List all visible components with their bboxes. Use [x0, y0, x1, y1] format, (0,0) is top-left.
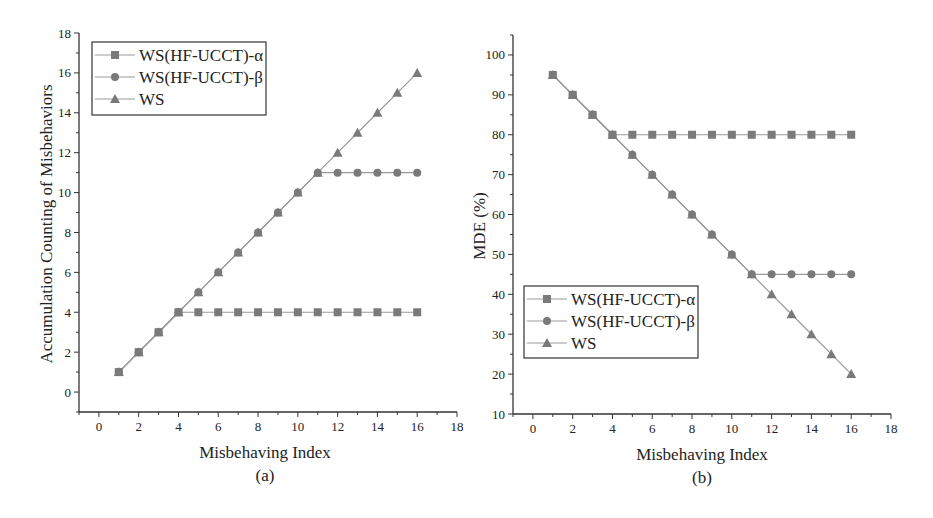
y-tick-label: 18 — [58, 26, 71, 41]
y-tick-label: 2 — [65, 345, 72, 360]
caption-b: (b) — [692, 468, 712, 487]
x-tick-label: 18 — [451, 419, 464, 434]
x-tick-label: 10 — [291, 419, 304, 434]
y-tick-label: 30 — [492, 327, 505, 342]
x-tick-label: 12 — [765, 421, 778, 436]
x-tick-label: 6 — [215, 419, 222, 434]
legend-a: WS(HF-UCCT)-αWS(HF-UCCT)-βWS — [92, 42, 266, 115]
legend-b: WS(HF-UCCT)-αWS(HF-UCCT)-βWS — [524, 286, 698, 358]
legend-label: WS(HF-UCCT)-β — [139, 68, 263, 87]
series-markers — [115, 308, 421, 376]
y-tick-label: 20 — [492, 367, 505, 382]
x-tick-label: 0 — [530, 421, 537, 436]
x-tick-label: 12 — [331, 419, 344, 434]
legend-label: WS — [571, 334, 597, 353]
legend-label: WS — [139, 90, 165, 109]
series-markers — [549, 71, 855, 278]
y-tick-label: 90 — [492, 87, 505, 102]
y-axis-label-a: Accumulation Counting of Misbehaviors — [37, 84, 56, 363]
y-tick-label: 10 — [58, 185, 71, 200]
legend-label: WS(HF-UCCT)-β — [571, 312, 695, 331]
caption-a: (a) — [256, 466, 275, 485]
series-line — [119, 73, 417, 372]
x-tick-label: 0 — [96, 419, 103, 434]
x-axis-label-a: Misbehaving Index — [199, 443, 331, 462]
x-tick-label: 10 — [725, 421, 738, 436]
x-tick-label: 18 — [885, 421, 898, 436]
legend-label: WS(HF-UCCT)-α — [571, 290, 695, 309]
x-tick-label: 4 — [175, 419, 182, 434]
y-tick-label: 6 — [65, 265, 72, 280]
x-tick-label: 8 — [255, 419, 262, 434]
y-tick-label: 80 — [492, 127, 505, 142]
series-line — [553, 75, 851, 135]
series-markers — [549, 71, 855, 139]
series-line — [119, 312, 417, 372]
y-tick-label: 0 — [65, 385, 72, 400]
x-tick-label: 14 — [805, 421, 819, 436]
series-line — [553, 75, 851, 274]
series-markers — [115, 169, 421, 376]
y-tick-label: 40 — [492, 287, 505, 302]
y-tick-label: 8 — [65, 225, 72, 240]
x-tick-label: 14 — [371, 419, 385, 434]
y-axis-label-b: MDE (%) — [470, 192, 489, 260]
axes-b: 024681012141618102030405060708090100 — [486, 35, 898, 436]
y-tick-label: 16 — [58, 65, 72, 80]
x-tick-label: 6 — [649, 421, 656, 436]
x-axis-label-b: Misbehaving Index — [636, 445, 768, 464]
chart-panel-a: 024681012141618024681012141618 Misbehavi… — [37, 26, 464, 486]
y-tick-label: 50 — [492, 247, 505, 262]
x-tick-label: 16 — [845, 421, 859, 436]
y-tick-label: 14 — [58, 105, 72, 120]
x-tick-label: 8 — [689, 421, 696, 436]
x-tick-label: 4 — [609, 421, 616, 436]
chart-panel-b: 024681012141618102030405060708090100 Mis… — [470, 35, 898, 487]
x-tick-label: 2 — [135, 419, 142, 434]
x-tick-label: 2 — [569, 421, 576, 436]
y-tick-label: 4 — [65, 305, 72, 320]
y-tick-label: 12 — [58, 145, 71, 160]
y-tick-label: 10 — [492, 407, 505, 422]
y-tick-label: 100 — [486, 47, 506, 62]
series-line — [119, 173, 417, 372]
legend-label: WS(HF-UCCT)-α — [139, 46, 263, 65]
y-tick-label: 60 — [492, 207, 505, 222]
figure: 024681012141618024681012141618 Misbehavi… — [0, 0, 933, 518]
x-tick-label: 16 — [411, 419, 425, 434]
y-tick-label: 70 — [492, 167, 505, 182]
